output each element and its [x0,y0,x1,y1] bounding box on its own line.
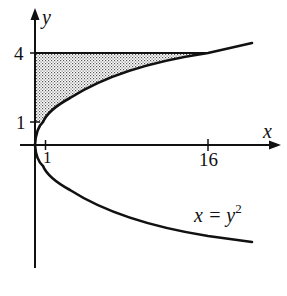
shaded-region [35,53,208,122]
y-axis-arrow-icon [31,8,40,20]
curve-equation-label: x = y2 [193,201,242,227]
x-axis-label: x [262,120,272,142]
y-tick-label-4: 4 [14,43,24,64]
x-tick-label-16: 16 [199,149,218,170]
diagram-canvas: y x 4 1 1 16 x = y2 [0,0,287,296]
curve-equation-base: x = y [193,204,235,227]
curve-equation-exponent: 2 [235,201,242,216]
y-axis-label: y [40,6,51,29]
parabola-lower-branch [35,145,252,242]
y-tick-label-1: 1 [16,112,26,133]
x-tick-label-1: 1 [43,148,52,167]
